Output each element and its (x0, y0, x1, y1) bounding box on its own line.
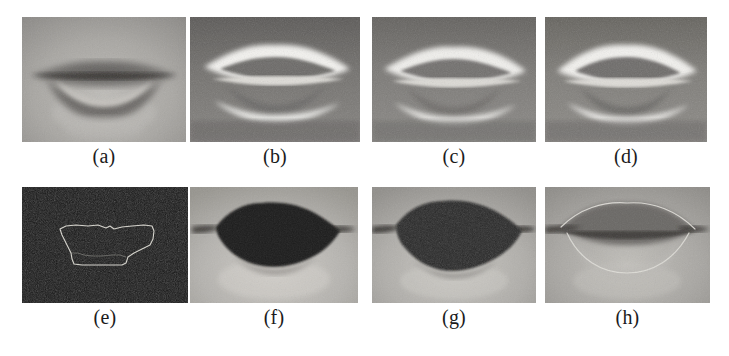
panel-label-h: (h) (545, 306, 710, 328)
lip-image-d (545, 17, 707, 142)
panel-label-e: (e) (22, 306, 188, 328)
panel-image-e (22, 187, 188, 303)
panel-cell-g: (g) (372, 187, 536, 303)
panel-cell-c: (c) (372, 17, 536, 142)
panel-image-f (190, 187, 358, 303)
panel-image-a (22, 17, 186, 142)
panel-label-b: (b) (190, 145, 360, 167)
panel-cell-a: (a) (22, 17, 186, 142)
panel-cell-h: (h) (545, 187, 710, 303)
lip-image-a (22, 17, 186, 142)
panel-cell-d: (d) (545, 17, 707, 142)
panel-row-top: (a) (0, 0, 729, 178)
panel-label-g: (g) (372, 306, 536, 328)
lip-image-b (190, 17, 360, 142)
lip-image-c (372, 17, 536, 142)
panel-label-c: (c) (372, 145, 536, 167)
panel-image-b (190, 17, 360, 142)
panel-label-f: (f) (190, 306, 358, 328)
panel-cell-b: (b) (190, 17, 360, 142)
panel-label-a: (a) (22, 145, 186, 167)
panel-label-d: (d) (545, 145, 707, 167)
figure-root: (a) (0, 0, 729, 356)
panel-cell-f: (f) (190, 187, 358, 303)
panel-image-g (372, 187, 536, 303)
panel-image-d (545, 17, 707, 142)
panel-row-bottom: (e) (0, 178, 729, 356)
lip-image-h (545, 187, 710, 303)
lip-image-g (372, 187, 536, 303)
lip-image-f (190, 187, 358, 303)
panel-cell-e: (e) (22, 187, 188, 303)
panel-image-h (545, 187, 710, 303)
panel-image-c (372, 17, 536, 142)
lip-image-e (22, 187, 188, 303)
